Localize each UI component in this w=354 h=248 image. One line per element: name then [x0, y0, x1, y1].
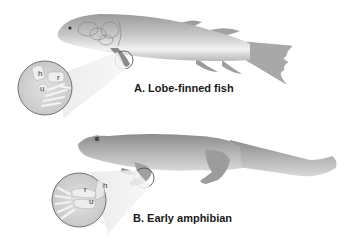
bone-label-humerus-b: h [103, 181, 107, 190]
bone-label-ulna-b: u [89, 197, 93, 206]
bone-label-radius-a: r [57, 73, 60, 82]
limb-bone-inset-b: r h u [52, 173, 107, 227]
caption-early-amphibian: B. Early amphibian [133, 212, 232, 224]
bone-label-ulna-a: u [40, 84, 44, 93]
figure-canvas: h r u [0, 0, 354, 248]
bone-label-radius-b: r [84, 185, 87, 194]
bone-label-humerus-a: h [38, 69, 42, 78]
fin-bone-inset-a: h r u [18, 61, 72, 115]
caption-lobe-finned-fish: A. Lobe-finned fish [134, 82, 234, 94]
illustration: h r u [0, 0, 354, 248]
